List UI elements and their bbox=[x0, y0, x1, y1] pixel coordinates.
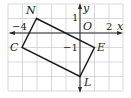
tick-label-y-1: 1 bbox=[72, 12, 78, 23]
tick-label-y-neg1: −1 bbox=[63, 42, 78, 53]
coordinate-plane: y x O −4 2 1 −1 N E L C bbox=[0, 0, 131, 98]
y-axis-down-arrow-icon bbox=[78, 87, 82, 93]
origin-label: O bbox=[83, 20, 92, 33]
tick-label-x-2: 2 bbox=[106, 21, 112, 32]
x-axis-label: x bbox=[117, 20, 124, 33]
vertex-label-E: E bbox=[96, 41, 105, 54]
vertex-label-L: L bbox=[83, 76, 91, 89]
tick-label-x-neg4: −4 bbox=[12, 21, 27, 32]
y-axis-label: y bbox=[82, 2, 90, 15]
vertex-label-C: C bbox=[10, 41, 19, 54]
y-axis bbox=[78, 3, 82, 93]
vertex-label-N: N bbox=[25, 4, 36, 17]
